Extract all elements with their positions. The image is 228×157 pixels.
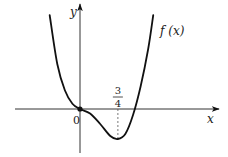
function-label: f (x) (159, 24, 185, 38)
fraction-numerator: 3 (115, 85, 121, 96)
function-curve (50, 15, 154, 139)
origin-point (77, 106, 82, 111)
y-axis-label: y (69, 5, 77, 19)
x-axis-label: x (207, 112, 214, 126)
origin-label: 0 (73, 114, 80, 127)
function-graph: x y 0 f (x) 3 4 (0, 0, 228, 157)
annotation-fraction: 3 4 (113, 85, 123, 109)
fraction-denominator: 4 (115, 98, 121, 109)
